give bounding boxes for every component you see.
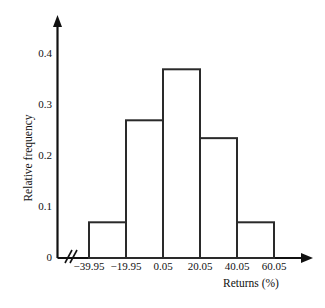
- y-tick-label-4: 0.4: [18, 48, 52, 59]
- bar-3: [163, 69, 200, 258]
- y-tick-label-0: 0: [18, 252, 52, 263]
- x-tick-label-5: 60.05: [251, 261, 297, 272]
- x-axis-arrow-icon: [301, 253, 313, 263]
- bar-1: [89, 222, 126, 258]
- y-axis-title: Relative frequency: [22, 83, 34, 233]
- y-axis-arrow-icon: [53, 15, 62, 27]
- bar-5: [237, 222, 274, 258]
- x-axis-title: Returns (%): [223, 277, 279, 289]
- bar-4: [200, 138, 237, 258]
- histogram-chart: 0 0.1 0.2 0.3 0.4 −39.95 −19.95 0.05 20.…: [0, 0, 325, 308]
- histogram-bars: [89, 69, 274, 258]
- bar-2: [126, 120, 163, 258]
